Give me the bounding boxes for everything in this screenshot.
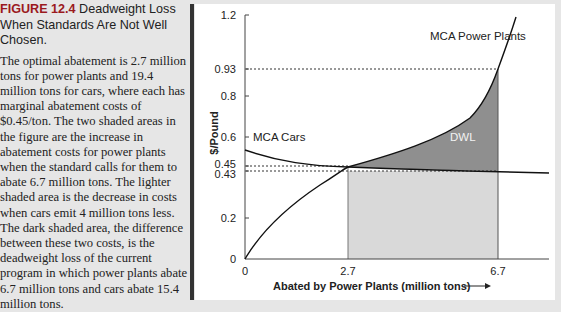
y-ticks — [245, 15, 249, 218]
x-tick-2-7: 2.7 — [340, 265, 355, 277]
x-tick-0: 0 — [242, 265, 248, 277]
x-tick-6-7: 6.7 — [490, 265, 505, 277]
y-tick-0-8: 0.8 — [221, 90, 236, 102]
y-tick-1-2: 1.2 — [221, 9, 236, 21]
label-mca-cars: MCA Cars — [253, 131, 306, 143]
label-mca-power-plants: MCA Power Plants — [430, 30, 526, 42]
y-tick-0-93: 0.93 — [215, 63, 236, 75]
label-dwl: DWL — [450, 131, 476, 143]
x-axis-title: Abated by Power Plants (million tons) — [273, 280, 471, 292]
y-tick-0-2: 0.2 — [221, 212, 236, 224]
y-tick-0: 0 — [230, 253, 236, 265]
dwl-area — [348, 69, 498, 171]
y-tick-0-43: 0.43 — [215, 168, 236, 180]
y-tick-0-6: 0.6 — [221, 131, 236, 143]
y-axis-title: $/Pound — [208, 111, 220, 154]
light-shaded-area — [348, 171, 498, 259]
